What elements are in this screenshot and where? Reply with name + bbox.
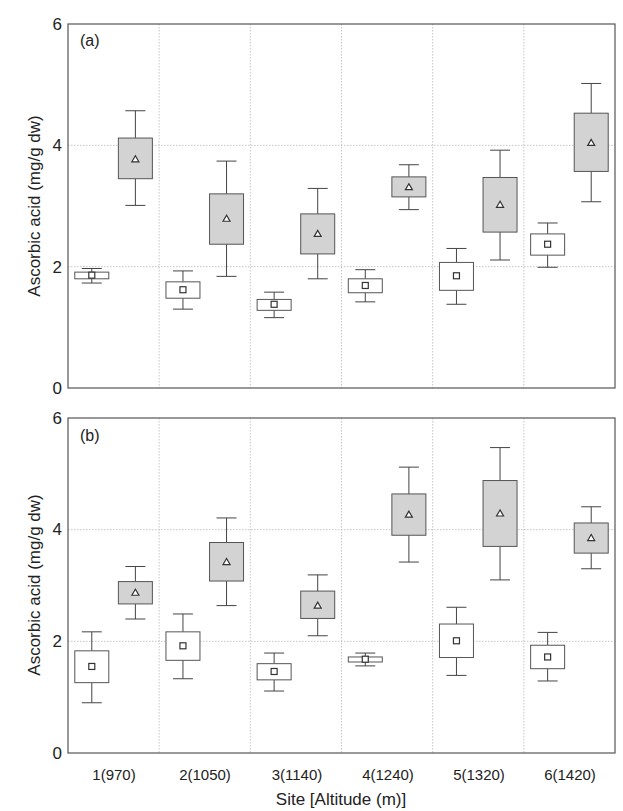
panel-b-label: (b) (80, 427, 100, 444)
panel-b-box-gray-site-1 (118, 567, 152, 619)
panel-b-box-white-site-4 (348, 653, 382, 666)
panel-b-box-white-site-3 (257, 653, 291, 691)
panel-a-ytick-4: 4 (53, 136, 62, 155)
panel-a-plot-area (68, 24, 615, 388)
panel-b-box-gray-site-6 (574, 507, 608, 569)
panel-a-ytick-6: 6 (53, 15, 62, 34)
xtick-site-3: 3(1140) (272, 766, 323, 783)
panel-a-box-gray-site-2 (210, 161, 244, 276)
panel-a-box-gray-site-6 (574, 83, 608, 201)
xtick-site-6: 6(1420) (544, 766, 596, 783)
panel-a-box-white-site-2 (166, 271, 200, 309)
panel-b-box-gray-site-2 (210, 518, 244, 606)
panel-a-ylabel: Ascorbic acid (mg/g dw) (25, 115, 44, 296)
panel-a-box-white-site-3 (257, 292, 291, 317)
panel-a-box-gray-site-4 (392, 165, 426, 210)
panel-a-ytick-2: 2 (53, 258, 62, 277)
panel-b-box-white-site-6 (531, 632, 565, 681)
panel-a-box-white-site-4 (348, 270, 382, 302)
panel-b-ytick-4: 4 (53, 520, 62, 539)
panel-a-label: (a) (80, 32, 100, 49)
panel-a-box-white-site-6 (531, 223, 565, 267)
panel-b-box-gray-site-5 (483, 448, 517, 580)
panel-b-box-white-site-1 (75, 632, 109, 703)
panel-a-box-gray-site-3 (301, 188, 335, 278)
panel-b-box-gray-site-3 (301, 575, 335, 636)
panel-b-box-white-site-2 (166, 614, 200, 679)
panel-a-box-gray-site-1 (118, 111, 152, 206)
panel-b-ytick-0: 0 (53, 744, 62, 763)
xtick-site-2: 2(1050) (179, 766, 231, 783)
boxplot-figure: (a) 6 4 2 0 Ascorbic acid (mg/g dw) (b) … (0, 0, 623, 811)
x-axis-title: Site [Altitude (m)] (276, 790, 406, 809)
xtick-site-5: 5(1320) (453, 766, 505, 783)
panel-b: (b) 6 4 2 0 Ascorbic acid (mg/g dw) 1(97… (25, 409, 615, 809)
xtick-site-1: 1(970) (92, 766, 135, 783)
panel-b-ylabel: Ascorbic acid (mg/g dw) (25, 494, 44, 675)
xtick-site-4: 4(1240) (362, 766, 414, 783)
panel-b-box-white-site-5 (439, 607, 473, 675)
panel-a-box-white-site-1 (75, 268, 109, 283)
panel-b-ytick-2: 2 (53, 632, 62, 651)
panel-a-ytick-0: 0 (53, 379, 62, 398)
panel-b-plot-area (68, 418, 615, 753)
panel-a-box-white-site-5 (439, 248, 473, 304)
panel-a: (a) 6 4 2 0 Ascorbic acid (mg/g dw) (25, 15, 615, 398)
panel-b-box-gray-site-4 (392, 467, 426, 562)
panel-b-ytick-6: 6 (53, 409, 62, 428)
panel-a-box-gray-site-5 (483, 150, 517, 260)
